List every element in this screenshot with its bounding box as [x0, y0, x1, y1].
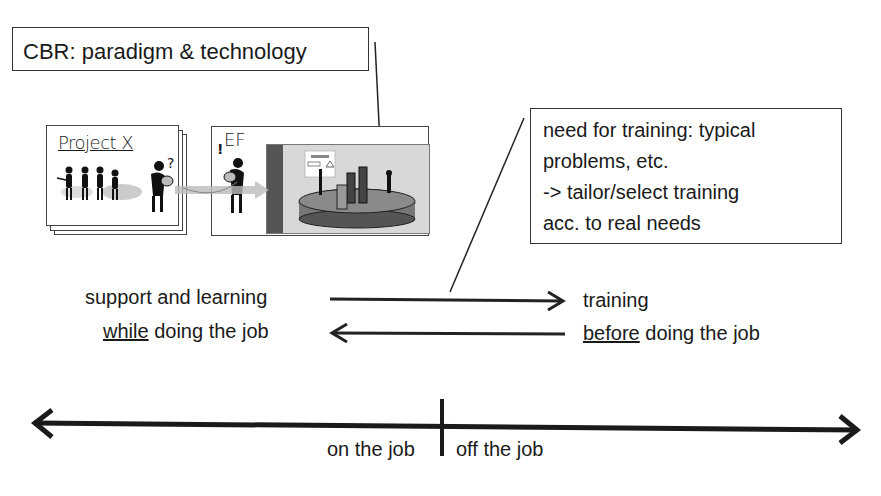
people-group-icon: ? — [47, 156, 180, 226]
on-the-job-label: on the job — [327, 438, 415, 461]
need-line-3: -> tailor/select training — [543, 177, 841, 208]
need-line-1: need for training: typical — [543, 115, 841, 146]
knowledge-flow-arrow — [175, 178, 270, 203]
need-for-training-box: need for training: typical problems, etc… — [530, 108, 842, 244]
while-doing-job-label: while doing the job — [103, 320, 269, 343]
training-label: training — [583, 289, 649, 312]
arrow-right-to-training — [330, 292, 563, 310]
svg-text:?: ? — [167, 156, 174, 171]
ef-title: EF — [224, 129, 246, 150]
need-line-2: problems, etc. — [543, 146, 841, 177]
arrow-left-to-while — [332, 324, 565, 342]
ef-exclaim-mark: ! — [217, 141, 223, 157]
project-card-front: Project X ? — [46, 125, 179, 226]
on-off-job-axis — [34, 399, 858, 456]
while-underlined: while — [103, 320, 149, 342]
off-the-job-label: off the job — [456, 438, 543, 461]
cbr-paradigm-box: CBR: paradigm & technology — [12, 27, 369, 71]
ef-repository-panel — [266, 144, 430, 234]
connector-layer — [0, 0, 881, 496]
knowledge-repository-icon — [283, 145, 429, 233]
before-doing-job-label: before doing the job — [583, 322, 760, 345]
need-line-4: acc. to real needs — [543, 208, 841, 239]
project-x-title: Project X — [58, 132, 133, 153]
need-pointer-line — [450, 118, 524, 292]
cbr-box-text: CBR: paradigm & technology — [23, 39, 307, 64]
support-learning-label: support and learning — [85, 286, 267, 309]
before-underlined: before — [583, 322, 640, 344]
